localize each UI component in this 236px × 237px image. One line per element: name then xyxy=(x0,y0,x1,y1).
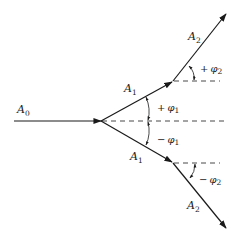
svg-text:+φ2: +φ2 xyxy=(200,63,222,76)
svg-text:A2: A2 xyxy=(187,30,201,45)
label-a1-upper: A1 xyxy=(123,82,137,97)
angle-arc-phi2-plus xyxy=(189,66,194,80)
svg-text:A2: A2 xyxy=(186,199,200,214)
label-a2-lower: A2 xyxy=(186,199,200,214)
branching-vector-diagram: A0 A1 A1 A2 A2 +φ1 −φ1 +φ2 −φ2 xyxy=(0,0,236,237)
svg-text:A0: A0 xyxy=(16,103,30,118)
svg-text:+φ1: +φ1 xyxy=(157,102,179,115)
vector-a2-lower xyxy=(173,163,226,228)
angle-arc-phi1-minus xyxy=(146,122,149,145)
label-phi2-plus: +φ2 xyxy=(200,63,222,76)
label-phi2-minus: −φ2 xyxy=(199,174,221,187)
label-a2-upper: A2 xyxy=(187,30,201,45)
svg-text:−φ2: −φ2 xyxy=(199,174,221,187)
reference-lines xyxy=(102,81,226,163)
svg-text:−φ1: −φ1 xyxy=(157,134,179,147)
svg-text:A1: A1 xyxy=(129,150,143,165)
angle-arc-phi2-minus xyxy=(190,164,195,178)
svg-text:A1: A1 xyxy=(123,82,137,97)
label-a1-lower: A1 xyxy=(129,150,143,165)
label-phi1-plus: +φ1 xyxy=(157,102,179,115)
label-phi1-minus: −φ1 xyxy=(157,134,179,147)
label-a0: A0 xyxy=(16,103,30,118)
angle-arc-phi1-plus xyxy=(146,97,149,120)
